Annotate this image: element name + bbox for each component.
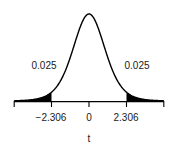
tick-label-zero: 0 — [86, 112, 92, 123]
left-tail-area-label: 0.025 — [31, 60, 56, 71]
right-tail-area-label: 0.025 — [124, 60, 149, 71]
density-curve — [14, 14, 164, 101]
x-axis-label: t — [88, 133, 91, 144]
tick-label-neg-critical: −2.306 — [36, 112, 67, 123]
t-distribution-chart: 0.025 0.025 −2.306 0 2.306 t — [0, 0, 174, 156]
tick-label-pos-critical: 2.306 — [113, 112, 138, 123]
